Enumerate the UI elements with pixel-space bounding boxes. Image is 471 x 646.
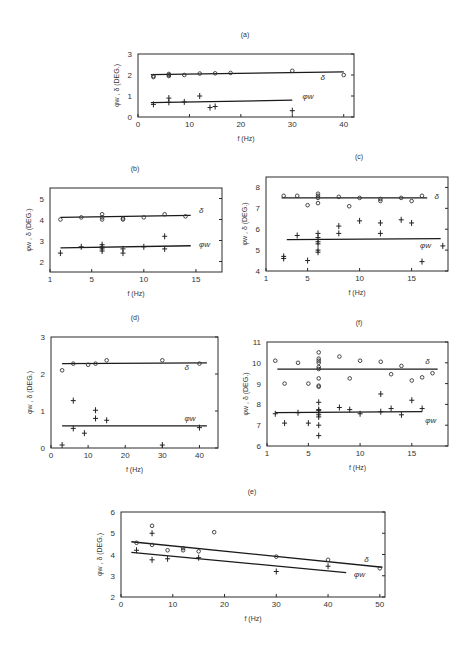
series-label: φw: [354, 570, 366, 579]
x-tick-label: 0: [119, 600, 124, 609]
circle-marker-icon: [150, 524, 154, 528]
fit-line: [151, 100, 292, 103]
circle-marker-icon: [295, 194, 299, 198]
plus-marker-icon: [165, 556, 170, 562]
y-tick-label: 2: [41, 370, 46, 379]
y-tick-label: 6: [257, 442, 262, 451]
panel-c: (c)15101545678f (Hz)φw , δ (DEG.)δφw: [241, 153, 448, 297]
circle-marker-icon: [342, 73, 346, 77]
y-axis-label: φw , δ (DEG.): [25, 208, 33, 251]
y-axis-label: φw , δ (DEG.): [241, 202, 249, 245]
circle-marker-icon: [283, 382, 287, 386]
circle-marker-icon: [420, 376, 424, 380]
panel-title: (d): [131, 314, 140, 322]
circle-marker-icon: [410, 199, 414, 203]
circle-marker-icon: [212, 530, 216, 534]
plus-marker-icon: [357, 218, 362, 224]
circle-marker-icon: [347, 204, 351, 208]
plus-marker-icon: [58, 250, 63, 256]
plus-marker-icon: [104, 417, 109, 423]
circle-marker-icon: [389, 372, 393, 376]
x-tick-label: 10: [84, 451, 93, 460]
panel-title: (f): [356, 319, 363, 327]
series-delta: δ: [60, 359, 207, 373]
plus-marker-icon: [120, 250, 125, 256]
y-tick-label: 10: [252, 359, 261, 368]
plus-marker-icon: [197, 93, 202, 99]
circle-marker-icon: [348, 377, 352, 381]
panel-a: (a)0102030400123f (Hz)φw , δ (DEG.)δφw: [113, 31, 354, 143]
x-axis-label: f (Hz): [244, 615, 261, 623]
plus-marker-icon: [399, 217, 404, 223]
circle-marker-icon: [307, 382, 311, 386]
plus-marker-icon: [213, 104, 218, 110]
x-tick-label: 1: [48, 275, 53, 284]
plot-frame: [50, 188, 222, 272]
y-axis-label: φw , δ (DEG.): [113, 64, 121, 107]
plus-marker-icon: [79, 244, 84, 250]
circle-marker-icon: [105, 359, 109, 363]
series-label: δ: [434, 192, 439, 201]
circle-marker-icon: [317, 351, 321, 355]
plus-marker-icon: [326, 563, 331, 569]
plus-marker-icon: [409, 397, 414, 403]
series-delta: δ: [59, 206, 204, 221]
series-delta: δ: [151, 69, 346, 82]
circle-marker-icon: [410, 379, 414, 383]
y-axis-label: φw , δ (DEG.): [242, 372, 250, 415]
x-tick-label: 20: [236, 120, 245, 129]
x-tick-label: 0: [136, 120, 141, 129]
y-tick-label: 2: [128, 71, 133, 80]
series-label: δ: [199, 206, 204, 215]
plus-marker-icon: [336, 230, 341, 236]
circle-marker-icon: [379, 360, 383, 364]
plus-marker-icon: [316, 433, 321, 439]
x-tick-label: 10: [356, 449, 365, 458]
y-tick-label: 5: [256, 246, 261, 255]
x-tick-label: 15: [407, 449, 416, 458]
series-phi-w: φw: [151, 92, 315, 114]
circle-marker-icon: [296, 361, 300, 365]
panel-title: (e): [248, 488, 257, 496]
y-tick-label: 11: [253, 338, 262, 347]
y-tick-label: 9: [257, 380, 262, 389]
x-tick-label: 20: [121, 451, 130, 460]
x-tick-label: 40: [324, 600, 333, 609]
series-phi-w: φw: [131, 530, 366, 579]
fit-line: [287, 239, 441, 240]
plus-marker-icon: [141, 244, 146, 250]
y-tick-label: 8: [256, 183, 261, 192]
plus-marker-icon: [306, 420, 311, 426]
x-tick-label: 15: [191, 275, 200, 284]
y-tick-label: 5: [111, 529, 116, 538]
plot-frame: [266, 177, 448, 271]
plus-marker-icon: [316, 422, 321, 428]
y-tick-label: 8: [257, 400, 262, 409]
circle-marker-icon: [306, 203, 310, 207]
plus-marker-icon: [166, 99, 171, 105]
y-tick-label: 2: [40, 258, 45, 267]
plus-marker-icon: [162, 233, 167, 239]
y-tick-label: 3: [40, 237, 45, 246]
circle-marker-icon: [197, 550, 201, 554]
plus-marker-icon: [409, 220, 414, 226]
circle-marker-icon: [420, 194, 424, 198]
plus-marker-icon: [378, 220, 383, 226]
x-tick-label: 20: [220, 600, 229, 609]
y-tick-label: 1: [128, 92, 133, 101]
panel-e: (e)0102030405023456f (Hz)φw , δ (DEG.)δφ…: [96, 488, 385, 623]
panel-title: (c): [355, 153, 363, 161]
y-tick-label: 4: [40, 216, 45, 225]
y-tick-label: 5: [40, 195, 45, 204]
plus-marker-icon: [290, 108, 295, 114]
x-tick-label: 10: [355, 274, 364, 283]
y-tick-label: 0: [128, 113, 133, 122]
y-axis-label: φw , δ (DEG.): [26, 371, 34, 414]
plus-marker-icon: [71, 398, 76, 404]
y-tick-label: 2: [111, 593, 116, 602]
plus-marker-icon: [316, 399, 321, 405]
x-tick-label: 5: [89, 275, 94, 284]
panel-b: (b)1510152345f (Hz)φw , δ (DEG.)δφw: [25, 165, 222, 298]
x-axis-label: f (Hz): [349, 464, 366, 472]
circle-marker-icon: [317, 377, 321, 381]
